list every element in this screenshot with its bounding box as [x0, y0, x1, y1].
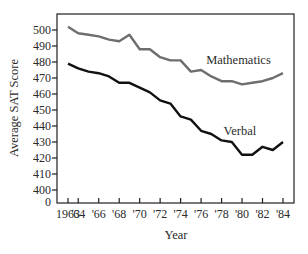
x-axis-title: Year [164, 228, 188, 242]
x-axis: 1963'64'66'68'70'72'74'76'78'80'82'84 [56, 198, 290, 221]
y-tick-label: 440 [33, 119, 51, 133]
y-tick-label: 420 [33, 151, 51, 165]
y-axis-title: Average SAT Score [7, 58, 21, 157]
y-tick-label: 450 [33, 103, 51, 117]
verbal-series-line [68, 64, 283, 155]
x-tick-label: '80 [235, 207, 249, 221]
x-tick-label: '82 [255, 207, 269, 221]
x-tick-label: '72 [153, 207, 167, 221]
mathematics-series-label: Mathematics [206, 53, 271, 67]
y-tick-label: 480 [33, 55, 51, 69]
y-tick-label-zero: 0 [45, 195, 51, 209]
y-tick-label: 410 [33, 167, 51, 181]
y-tick-label: 470 [33, 71, 51, 85]
x-tick-label: '70 [133, 207, 147, 221]
x-tick-label: '66 [92, 207, 106, 221]
x-tick-label: '84 [276, 207, 290, 221]
y-tick-label: 490 [33, 39, 51, 53]
x-tick-label: '74 [174, 207, 188, 221]
y-tick-label: 500 [33, 23, 51, 37]
sat-score-line-chart: 4004104204304404504604704804905000 1963'… [0, 0, 308, 254]
x-tick-label: '78 [214, 207, 228, 221]
x-tick-label: '76 [194, 207, 208, 221]
y-axis: 4004104204304404504604704804905000 [33, 23, 57, 209]
verbal-series-label: Verbal [224, 124, 257, 138]
y-tick-label: 430 [33, 135, 51, 149]
x-tick-label: '64 [71, 207, 85, 221]
y-tick-label: 460 [33, 87, 51, 101]
x-tick-label: '68 [112, 207, 126, 221]
